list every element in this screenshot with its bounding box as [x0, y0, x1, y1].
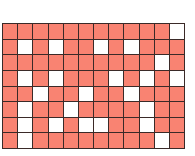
grid-cell[interactable]	[109, 55, 123, 70]
grid-cell[interactable]	[64, 24, 78, 39]
grid-cell[interactable]	[33, 71, 47, 86]
grid-cell[interactable]	[18, 102, 32, 117]
grid-cell[interactable]	[3, 55, 17, 70]
grid-cell[interactable]	[3, 102, 17, 117]
grid-cell[interactable]	[79, 40, 93, 55]
grid-cell[interactable]	[33, 118, 47, 133]
grid-cell[interactable]	[33, 55, 47, 70]
grid-cell[interactable]	[64, 55, 78, 70]
grid-cell[interactable]	[140, 55, 154, 70]
grid-cell[interactable]	[94, 40, 108, 55]
grid-cell[interactable]	[79, 118, 93, 133]
grid-cell[interactable]	[94, 71, 108, 86]
grid-cell[interactable]	[49, 24, 63, 39]
grid-cell[interactable]	[155, 133, 169, 148]
grid-cell[interactable]	[79, 71, 93, 86]
grid-cell[interactable]	[124, 71, 138, 86]
grid-cell[interactable]	[109, 133, 123, 148]
grid-cell[interactable]	[64, 133, 78, 148]
grid-cell[interactable]	[109, 87, 123, 102]
grid-cell[interactable]	[109, 40, 123, 55]
grid-cell[interactable]	[64, 40, 78, 55]
grid-cell[interactable]	[94, 118, 108, 133]
grid-cell[interactable]	[140, 133, 154, 148]
grid-cell[interactable]	[3, 133, 17, 148]
grid-cell[interactable]	[3, 118, 17, 133]
grid-cell[interactable]	[33, 102, 47, 117]
grid-board	[2, 23, 185, 149]
grid-cell[interactable]	[109, 71, 123, 86]
grid-cell[interactable]	[170, 87, 184, 102]
grid-cell[interactable]	[124, 118, 138, 133]
grid-cell[interactable]	[155, 55, 169, 70]
grid-cell[interactable]	[33, 40, 47, 55]
grid-cell[interactable]	[94, 102, 108, 117]
grid-cell[interactable]	[49, 40, 63, 55]
grid-cell[interactable]	[155, 71, 169, 86]
grid-cell[interactable]	[124, 55, 138, 70]
grid-cell[interactable]	[18, 87, 32, 102]
grid-cell[interactable]	[155, 40, 169, 55]
grid-cell[interactable]	[155, 118, 169, 133]
grid-cell[interactable]	[155, 102, 169, 117]
grid-cell[interactable]	[170, 24, 184, 39]
grid-cell[interactable]	[18, 133, 32, 148]
grid-cell[interactable]	[79, 102, 93, 117]
grid-cell[interactable]	[64, 118, 78, 133]
grid-cell[interactable]	[3, 87, 17, 102]
grid-cell[interactable]	[79, 133, 93, 148]
grid-cell[interactable]	[64, 87, 78, 102]
grid-cell[interactable]	[140, 40, 154, 55]
grid-cell[interactable]	[155, 24, 169, 39]
grid-cell[interactable]	[49, 133, 63, 148]
grid-cell[interactable]	[18, 71, 32, 86]
grid-cell[interactable]	[170, 118, 184, 133]
grid-cell[interactable]	[49, 118, 63, 133]
grid-cell[interactable]	[170, 71, 184, 86]
grid-cell[interactable]	[170, 55, 184, 70]
grid-cell[interactable]	[124, 24, 138, 39]
grid-cell[interactable]	[140, 24, 154, 39]
grid-cell[interactable]	[94, 133, 108, 148]
grid-cell[interactable]	[140, 87, 154, 102]
grid-cell[interactable]	[3, 40, 17, 55]
grid-cell[interactable]	[18, 55, 32, 70]
grid-cell[interactable]	[124, 40, 138, 55]
grid-cell[interactable]	[79, 87, 93, 102]
grid-cell[interactable]	[33, 87, 47, 102]
grid-cell[interactable]	[49, 55, 63, 70]
grid-cell[interactable]	[94, 87, 108, 102]
grid-cell[interactable]	[49, 87, 63, 102]
grid-cell[interactable]	[140, 102, 154, 117]
grid-cell[interactable]	[33, 133, 47, 148]
grid-cell[interactable]	[109, 24, 123, 39]
grid-cell[interactable]	[94, 55, 108, 70]
grid-cell[interactable]	[170, 133, 184, 148]
grid-cell[interactable]	[155, 87, 169, 102]
grid-cell[interactable]	[170, 102, 184, 117]
grid-cell[interactable]	[79, 24, 93, 39]
grid-cell[interactable]	[124, 133, 138, 148]
grid-cell[interactable]	[140, 71, 154, 86]
grid-cell[interactable]	[64, 71, 78, 86]
grid-cell[interactable]	[18, 24, 32, 39]
grid-cell[interactable]	[18, 40, 32, 55]
grid-cell[interactable]	[109, 118, 123, 133]
grid-cell[interactable]	[79, 55, 93, 70]
grid-cell[interactable]	[109, 102, 123, 117]
grid-cell[interactable]	[49, 102, 63, 117]
grid-cell[interactable]	[18, 118, 32, 133]
grid-cell[interactable]	[3, 71, 17, 86]
grid-cell[interactable]	[140, 118, 154, 133]
grid-cell[interactable]	[124, 102, 138, 117]
grid-cell[interactable]	[49, 71, 63, 86]
grid-cell[interactable]	[124, 87, 138, 102]
grid-cell[interactable]	[170, 40, 184, 55]
grid-cell[interactable]	[94, 24, 108, 39]
grid-cell[interactable]	[64, 102, 78, 117]
grid-cell[interactable]	[3, 24, 17, 39]
grid-cell[interactable]	[33, 24, 47, 39]
